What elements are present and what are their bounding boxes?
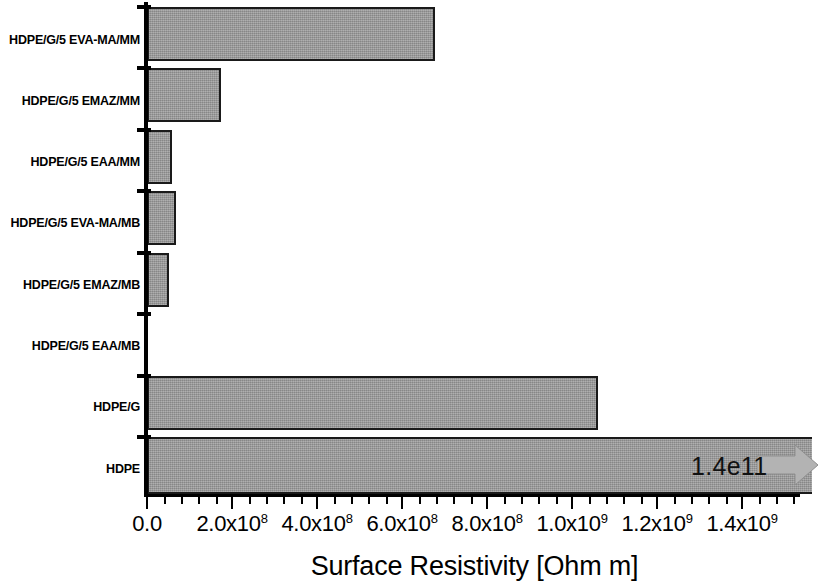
bar-chart: HDPE/G/5 EVA-MA/MM HDPE/G/5 EMAZ/MM HDPE… <box>0 0 819 588</box>
x-axis-tick-minor <box>368 497 370 504</box>
x-axis-tick-label: 0.0 <box>132 511 162 537</box>
x-axis-tick-minor <box>589 497 591 504</box>
x-axis-tick-minor <box>521 497 523 504</box>
x-tick-mantissa: 1.2x10 <box>621 511 685 536</box>
x-axis-tick-minor <box>708 497 710 504</box>
x-axis-tick-minor <box>776 497 778 504</box>
x-tick-mantissa: 8.0x10 <box>451 511 515 536</box>
bar-value-label: 1.4e11 <box>691 452 767 481</box>
y-axis-tick <box>137 374 151 378</box>
x-axis-tick-minor <box>759 497 761 504</box>
x-axis-tick-minor <box>691 497 693 504</box>
category-label: HDPE <box>106 463 140 476</box>
category-label: HDPE/G <box>93 401 140 414</box>
x-tick-exponent: 8 <box>261 511 268 526</box>
x-axis-tick-minor <box>216 497 218 504</box>
x-axis-tick-minor <box>419 497 421 504</box>
x-axis-tick-minor <box>181 497 183 504</box>
x-axis-tick-label: 1.4x109 <box>706 511 777 537</box>
x-axis-tick-major <box>401 497 404 509</box>
x-axis-tick-label: 6.0x108 <box>366 511 437 537</box>
x-axis-tick-minor <box>471 497 473 504</box>
y-axis-tick <box>137 435 151 439</box>
y-axis-tick <box>137 312 151 316</box>
x-tick-mantissa: 1.4x10 <box>706 511 770 536</box>
x-axis-tick-minor <box>793 497 795 504</box>
x-axis-tick-label: 1.2x109 <box>621 511 692 537</box>
x-axis-tick-minor <box>606 497 608 504</box>
x-axis-title: Surface Resistivity [Ohm m] <box>0 551 819 582</box>
x-axis-tick-minor <box>164 497 166 504</box>
x-axis-tick-label: 2.0x108 <box>196 511 267 537</box>
x-axis-tick-minor <box>266 497 268 504</box>
x-tick-exponent: 9 <box>601 511 608 526</box>
y-axis-tick <box>137 251 151 255</box>
x-axis-tick-minor <box>504 497 506 504</box>
x-axis-tick-minor <box>453 497 455 504</box>
x-tick-exponent: 8 <box>346 511 353 526</box>
x-tick-mantissa: 2.0x10 <box>196 511 260 536</box>
x-tick-mantissa: 4.0x10 <box>281 511 345 536</box>
x-axis-tick-minor <box>386 497 388 504</box>
category-label: HDPE/G/5 EAA/MM <box>30 156 140 169</box>
x-axis-tick-minor <box>351 497 353 504</box>
x-axis-tick-minor <box>641 497 643 504</box>
x-tick-exponent: 9 <box>771 511 778 526</box>
x-tick-exponent: 8 <box>431 511 438 526</box>
x-axis-tick-major <box>741 497 744 509</box>
x-tick-exponent: 9 <box>686 511 693 526</box>
x-axis-tick-minor <box>556 497 558 504</box>
x-axis-tick-major <box>656 497 659 509</box>
x-axis-tick-major <box>231 497 234 509</box>
x-tick-exponent: 8 <box>516 511 523 526</box>
x-axis-tick-major <box>571 497 574 509</box>
y-axis-tick <box>137 128 151 132</box>
x-axis-tick-major <box>146 497 149 509</box>
x-axis-title-text: Surface Resistivity [Ohm m] <box>311 551 639 581</box>
x-axis-tick-label: 4.0x108 <box>281 511 352 537</box>
x-axis-tick-minor <box>249 497 251 504</box>
x-axis-tick-major <box>316 497 319 509</box>
x-axis-tick-minor <box>538 497 540 504</box>
x-axis-tick-minor <box>674 497 676 504</box>
bar-hdpe-g-5-emaz-mm <box>147 68 221 122</box>
y-axis-tick <box>137 5 151 9</box>
x-axis-tick-major <box>486 497 489 509</box>
x-axis-tick-minor <box>334 497 336 504</box>
x-axis-tick-minor <box>198 497 200 504</box>
y-axis <box>144 2 148 497</box>
y-axis-tick <box>137 189 151 193</box>
bar-hdpe-g-5-eva-ma-mb <box>147 191 176 245</box>
x-axis-tick-minor <box>436 497 438 504</box>
x-axis-tick-label: 1.0x109 <box>536 511 607 537</box>
x-axis-tick-minor <box>283 497 285 504</box>
category-label: HDPE/G/5 EVA-MA/MM <box>9 34 140 47</box>
x-axis-tick-label: 8.0x108 <box>451 511 522 537</box>
x-axis-tick-minor <box>623 497 625 504</box>
bar-hdpe-g-5-eaa-mm <box>147 130 172 184</box>
category-label: HDPE/G/5 EAA/MB <box>32 340 140 353</box>
x-axis-tick-minor <box>726 497 728 504</box>
bar-hdpe-g-5-emaz-mb <box>147 253 169 307</box>
x-tick-mantissa: 6.0x10 <box>366 511 430 536</box>
bar-hdpe-g <box>147 376 598 430</box>
category-label: HDPE/G/5 EMAZ/MM <box>22 95 140 108</box>
x-tick-mantissa: 0.0 <box>132 511 162 536</box>
category-label: HDPE/G/5 EMAZ/MB <box>23 279 140 292</box>
y-axis-tick <box>137 66 151 70</box>
bar-hdpe-g-5-eva-ma-mm <box>147 7 435 61</box>
category-label: HDPE/G/5 EVA-MA/MB <box>10 217 140 230</box>
x-axis-tick-minor <box>301 497 303 504</box>
x-tick-mantissa: 1.0x10 <box>536 511 600 536</box>
